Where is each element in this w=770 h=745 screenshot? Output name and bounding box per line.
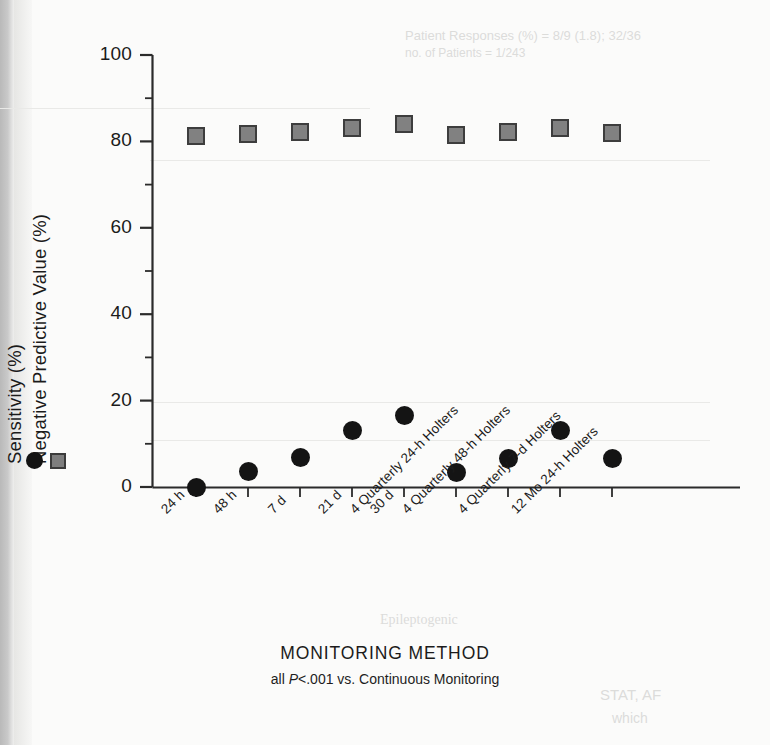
data-point-sensitivity-30d (395, 406, 414, 425)
figure-page: Patient Responses (%) = 8/9 (1.8); 32/36… (0, 0, 770, 745)
y-tick-label-100: 100 (86, 43, 132, 65)
y-tick-label-20: 20 (86, 389, 132, 411)
y-tick-label-60: 60 (86, 216, 132, 238)
data-point-npv-12mo-24h-holters (603, 124, 621, 142)
scatter-plot: 100 80 60 40 20 0 Sensitivity (%) Negati… (0, 0, 770, 745)
y-axis-title-group: Sensitivity (%) Negative Predictive Valu… (24, 150, 82, 450)
data-point-sensitivity-21d (343, 421, 362, 440)
legend-circle-icon (26, 452, 43, 469)
data-point-sensitivity-48h (239, 462, 258, 481)
x-axis-subtitle-p-italic: P (289, 671, 298, 687)
y-tick-label-80: 80 (86, 129, 132, 151)
y-tick-label-40: 40 (86, 302, 132, 324)
y-tick-label-0: 0 (86, 475, 132, 497)
axis-lines (0, 0, 770, 745)
data-point-npv-q7d-holters (551, 119, 569, 137)
data-point-npv-7d (291, 123, 309, 141)
data-point-sensitivity-12mo-24h-holters (603, 449, 622, 468)
data-point-sensitivity-7d (291, 448, 310, 467)
x-axis-subtitle: all P<.001 vs. Continuous Monitoring (0, 671, 770, 687)
legend-square-icon (50, 453, 66, 469)
y-axis-title-npv: Negative Predictive Value (%) (29, 214, 51, 464)
data-point-npv-24h (187, 127, 205, 145)
x-axis-subtitle-suffix: <.001 vs. Continuous Monitoring (298, 671, 499, 687)
data-point-npv-48h (239, 125, 257, 143)
data-point-npv-q48h-holters (499, 123, 517, 141)
x-axis-title: MONITORING METHOD (0, 643, 770, 664)
data-point-npv-21d (343, 119, 361, 137)
data-point-npv-q24h-holters (447, 126, 465, 144)
data-point-npv-30d (395, 115, 413, 133)
y-axis-title-sensitivity: Sensitivity (%) (4, 344, 26, 464)
data-point-sensitivity-24h (187, 478, 206, 497)
x-axis-subtitle-prefix: all (271, 671, 289, 687)
